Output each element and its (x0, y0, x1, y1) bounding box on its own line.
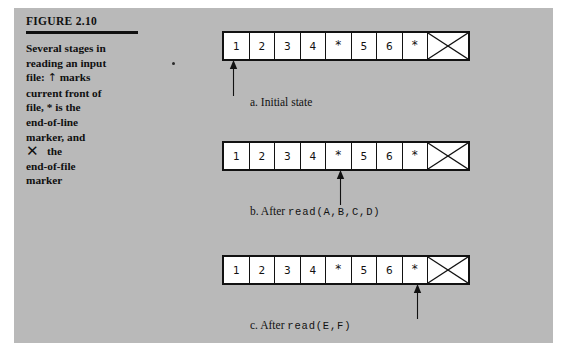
stage-a-caption: a. Initial state (250, 96, 312, 108)
figure-rule-divider (26, 31, 138, 34)
tape-cell: 2 (250, 33, 276, 59)
stage-c-caption: c. After read(E,F) (250, 319, 351, 332)
stage-b-caption: b. After read(A,B,C,D) (250, 205, 380, 218)
tape-cell: 3 (275, 257, 301, 283)
stage-b-tape: 1 2 3 4 * 5 6 * (222, 141, 470, 171)
tape-cell: 5 (352, 33, 378, 59)
caption-line-1: Several stages in (26, 42, 106, 54)
stage-b-caption-text: b. After (250, 205, 288, 217)
tape-cell: 2 (250, 143, 276, 169)
stage-c-group: 1 2 3 4 * 5 6 * (222, 255, 470, 285)
tape-cell-eol: * (403, 257, 429, 283)
tape-cell: 2 (250, 257, 276, 283)
tape-cell: 4 (301, 33, 327, 59)
caption-line-3-suffix: marks (60, 71, 91, 83)
stage-c-caption-code: read(E,F) (287, 320, 351, 332)
caption-line-2: reading an input (26, 57, 106, 69)
figure-page: FIGURE 2.10 Several stages in reading an… (0, 0, 574, 362)
up-arrow-icon: ↑ (48, 71, 57, 84)
caption-line-7: marker, and (26, 131, 85, 143)
figure-number-label: FIGURE 2.10 (26, 14, 148, 28)
caption-line-3-prefix: file: (26, 71, 45, 83)
caption-line-10: marker (26, 174, 62, 186)
tape-cell: 4 (301, 257, 327, 283)
stage-a-tape: 1 2 3 4 * 5 6 * (222, 31, 470, 61)
tape-cell: 1 (224, 257, 250, 283)
stage-a-front-pointer (229, 60, 238, 96)
tape-cell-eol: * (326, 257, 352, 283)
tape-cell-eol: * (326, 143, 352, 169)
stage-c-caption-text: c. After (250, 319, 287, 331)
stage-c-front-pointer (413, 284, 422, 319)
tape-cell-eol: * (326, 33, 352, 59)
tape-cell: 4 (301, 143, 327, 169)
tape-cell: 6 (377, 257, 403, 283)
stage-a-caption-text: a. Initial state (250, 96, 312, 108)
tape-cell-eof (428, 33, 468, 59)
figure-caption-text: Several stages in reading an input file:… (26, 41, 148, 188)
tape-cell: 5 (352, 143, 378, 169)
stage-a-group: 1 2 3 4 * 5 6 * (222, 31, 470, 61)
ink-speck (172, 62, 175, 65)
tape-cell: 3 (275, 143, 301, 169)
caption-line-9: end-of-file (26, 160, 76, 172)
eof-cross-icon (428, 257, 468, 283)
tape-cell: 6 (377, 33, 403, 59)
caption-line-5-suffix: is the (55, 101, 80, 113)
stage-c-tape: 1 2 3 4 * 5 6 * (222, 255, 470, 285)
tape-cell-eol: * (403, 33, 429, 59)
eof-cross-icon (428, 33, 468, 59)
eof-cross-icon (428, 143, 468, 169)
tape-cell: 5 (352, 257, 378, 283)
tape-cell: 3 (275, 33, 301, 59)
caption-line-5-prefix: file, (26, 101, 44, 113)
caption-line-4: current front of (26, 87, 102, 99)
tape-cell-eof (428, 257, 468, 283)
asterisk-icon: * (47, 101, 53, 113)
tape-cell-eof (428, 143, 468, 169)
caption-line-8-suffix: the (41, 145, 62, 157)
tape-cell-eol: * (403, 143, 429, 169)
tape-cell: 1 (224, 33, 250, 59)
tape-cell: 6 (377, 143, 403, 169)
stage-b-group: 1 2 3 4 * 5 6 * (222, 141, 470, 171)
cross-eof-icon: ✕ (26, 145, 39, 157)
stage-b-caption-code: read(A,B,C,D) (288, 206, 380, 218)
stage-b-front-pointer (336, 170, 345, 205)
caption-line-6: end-of-line (26, 116, 78, 128)
tape-cell: 1 (224, 143, 250, 169)
figure-caption-block: FIGURE 2.10 Several stages in reading an… (26, 14, 148, 188)
